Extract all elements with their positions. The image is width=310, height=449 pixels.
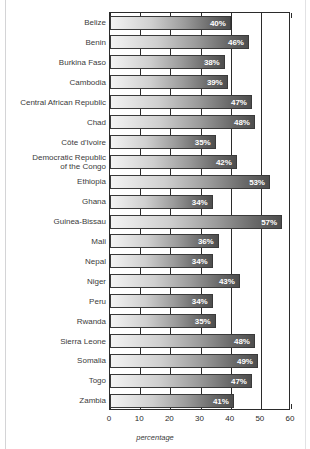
bar-value-label: 36% <box>198 236 214 248</box>
tick-bottom-60 <box>291 404 292 409</box>
bar[interactable]: 47% <box>110 374 252 388</box>
category-label: Cambodia <box>0 78 106 88</box>
category-label: Zambia <box>0 396 106 406</box>
category-label-slot: Sierra Leone <box>0 331 110 351</box>
bar-value-label: 47% <box>231 97 247 109</box>
category-label-slot: Zambia <box>0 391 110 411</box>
x-tick-label-30: 30 <box>185 414 215 423</box>
bar-value-label: 34% <box>192 296 208 308</box>
category-label-slot: Somalia <box>0 351 110 371</box>
category-label: Togo <box>0 376 106 386</box>
bar[interactable]: 38% <box>110 55 225 69</box>
bar[interactable]: 40% <box>110 16 231 30</box>
category-label: Somalia <box>0 356 106 366</box>
plot-area: BelizeBeninBurkina FasoCambodiaCentral A… <box>109 12 290 410</box>
bar-value-label: 35% <box>195 316 211 328</box>
chart-page: BelizeBeninBurkina FasoCambodiaCentral A… <box>0 0 310 449</box>
bar-row: 35% <box>110 132 289 152</box>
x-tick-label-50: 50 <box>245 414 275 423</box>
category-label: Mali <box>0 237 106 247</box>
bar-value-label: 34% <box>192 197 208 209</box>
bar-value-label: 43% <box>219 276 235 288</box>
category-label: Chad <box>0 118 106 128</box>
category-label: Ghana <box>0 197 106 207</box>
category-label-slot: Ethiopia <box>0 172 110 192</box>
bar[interactable]: 41% <box>110 394 234 408</box>
tick-top-60 <box>291 13 292 18</box>
page-frame-right-rule <box>305 0 306 449</box>
bar-value-label: 53% <box>249 177 265 189</box>
bar-value-label: 48% <box>234 336 250 348</box>
bar-value-label: 35% <box>195 137 211 149</box>
bar[interactable]: 53% <box>110 175 270 189</box>
bar-row: 34% <box>110 252 289 272</box>
bar[interactable]: 34% <box>110 195 213 209</box>
bar[interactable]: 48% <box>110 334 255 348</box>
bar-row: 35% <box>110 312 289 332</box>
category-label-slot: Togo <box>0 371 110 391</box>
category-label-slot: Nepal <box>0 252 110 272</box>
category-label: Democratic Republic of the Congo <box>0 153 106 172</box>
category-label: Niger <box>0 277 106 287</box>
category-label: Belize <box>0 18 106 28</box>
bar-row: 47% <box>110 371 289 391</box>
bar-value-label: 41% <box>213 396 229 408</box>
bar-row: 48% <box>110 113 289 133</box>
bar[interactable]: 57% <box>110 215 282 229</box>
bar-row: 34% <box>110 292 289 312</box>
category-label-slot: Peru <box>0 292 110 312</box>
bar[interactable]: 36% <box>110 234 219 248</box>
x-tick-label-10: 10 <box>124 414 154 423</box>
bar-value-label: 38% <box>204 57 220 69</box>
bar-row: 46% <box>110 33 289 53</box>
bar-row: 39% <box>110 73 289 93</box>
bar-row: 47% <box>110 93 289 113</box>
bar[interactable]: 43% <box>110 274 240 288</box>
bar-row: 42% <box>110 152 289 172</box>
bar[interactable]: 42% <box>110 155 237 169</box>
category-label-slot: Central African Republic <box>0 93 110 113</box>
category-label-slot: Belize <box>0 13 110 33</box>
bar-row: 34% <box>110 192 289 212</box>
bar[interactable]: 34% <box>110 294 213 308</box>
category-label: Rwanda <box>0 317 106 327</box>
category-label-slot: Chad <box>0 113 110 133</box>
bar-value-label: 57% <box>261 217 277 229</box>
bar-value-label: 34% <box>192 256 208 268</box>
category-label: Central African Republic <box>0 98 106 108</box>
category-label: Guinea-Bissau <box>0 217 106 227</box>
bar-row: 41% <box>110 391 289 411</box>
x-tick-label-0: 0 <box>94 414 124 423</box>
x-tick-label-40: 40 <box>215 414 245 423</box>
category-label: Burkina Faso <box>0 58 106 68</box>
category-label-slot: Mali <box>0 232 110 252</box>
category-label-slot: Democratic Republic of the Congo <box>0 152 110 172</box>
bar-value-label: 39% <box>207 77 223 89</box>
category-label-slot: Guinea-Bissau <box>0 212 110 232</box>
bar[interactable]: 46% <box>110 35 249 49</box>
bar[interactable]: 47% <box>110 95 252 109</box>
bar[interactable]: 34% <box>110 254 213 268</box>
bar[interactable]: 35% <box>110 135 216 149</box>
category-label: Ethiopia <box>0 177 106 187</box>
category-label-slot: Burkina Faso <box>0 53 110 73</box>
bar-row: 43% <box>110 272 289 292</box>
bar-row: 38% <box>110 53 289 73</box>
bar[interactable]: 39% <box>110 75 228 89</box>
bar[interactable]: 48% <box>110 115 255 129</box>
bar-row: 53% <box>110 172 289 192</box>
category-label-slot: Niger <box>0 272 110 292</box>
bar-row: 48% <box>110 331 289 351</box>
category-label: Benin <box>0 38 106 48</box>
bar-row: 36% <box>110 232 289 252</box>
bar-row: 40% <box>110 13 289 33</box>
category-label-slot: Rwanda <box>0 312 110 332</box>
bar[interactable]: 35% <box>110 314 216 328</box>
bar-value-label: 40% <box>210 18 226 30</box>
category-label: Côte d'Ivoire <box>0 138 106 148</box>
category-label: Peru <box>0 297 106 307</box>
category-label-slot: Côte d'Ivoire <box>0 132 110 152</box>
bar-row: 57% <box>110 212 289 232</box>
bar[interactable]: 49% <box>110 354 258 368</box>
category-label: Nepal <box>0 257 106 267</box>
